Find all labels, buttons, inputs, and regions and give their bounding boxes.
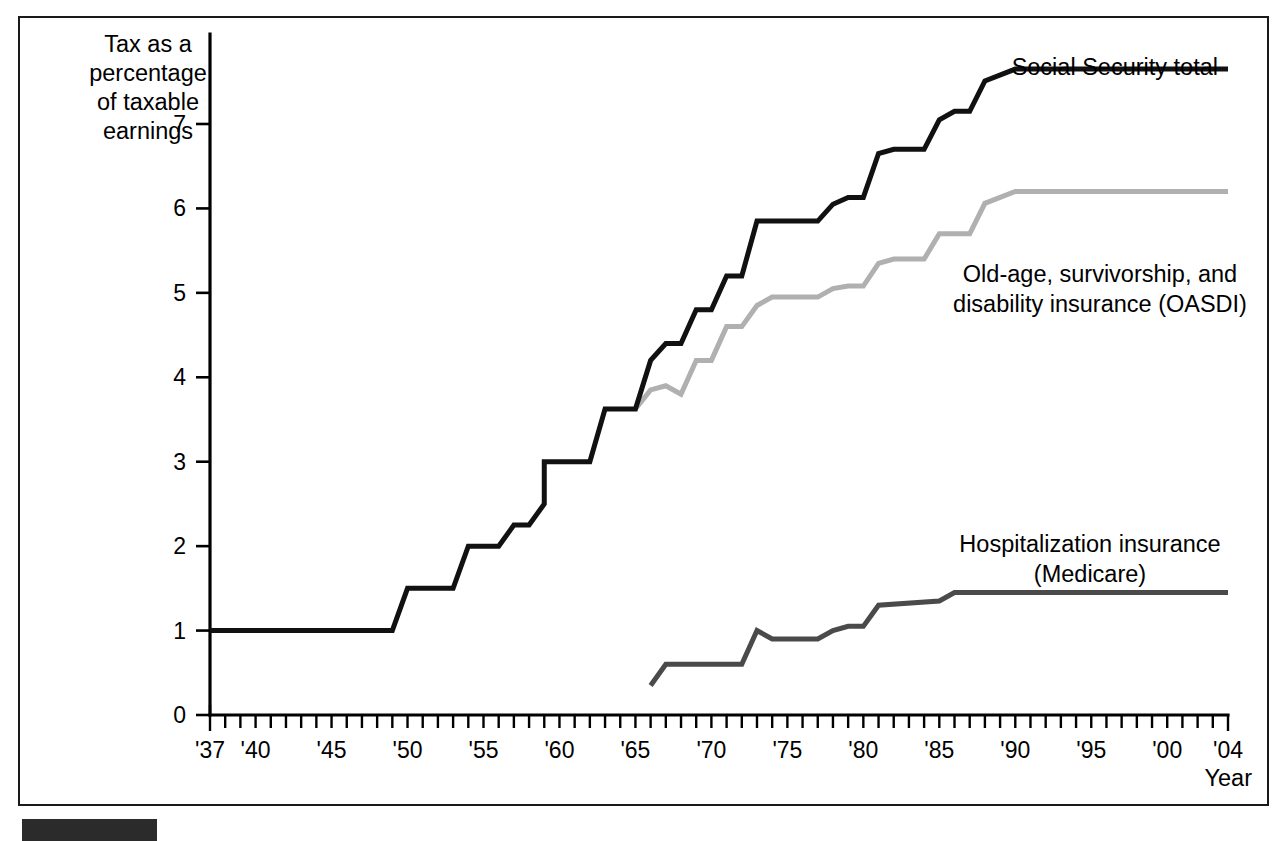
y-tick-label: 3 <box>173 449 186 475</box>
x-tick-label: '85 <box>924 737 954 763</box>
annotation-oasdi-line1: Old-age, survivorship, and <box>963 261 1237 287</box>
y-tick-label: 5 <box>173 280 186 306</box>
annotation-medicare-line2: (Medicare) <box>1034 561 1146 587</box>
figure-border <box>19 17 1268 805</box>
x-tick-label: '37 <box>195 737 225 763</box>
y-tick-label: 1 <box>173 618 186 644</box>
x-tick-label: '95 <box>1076 737 1106 763</box>
x-tick-label: '60 <box>544 737 574 763</box>
y-axis-title-line: percentage <box>89 60 207 86</box>
x-tick-label: '65 <box>620 737 650 763</box>
x-tick-label: '04 <box>1213 737 1243 763</box>
x-tick-label: '55 <box>469 737 499 763</box>
y-axis-title-line: Tax as a <box>104 31 192 57</box>
x-tick-label: '70 <box>696 737 726 763</box>
x-axis-title: Year <box>1205 765 1253 791</box>
x-tick-label: '50 <box>393 737 423 763</box>
y-tick-label: 4 <box>173 364 186 390</box>
x-tick-label: '75 <box>772 737 802 763</box>
x-tick-label: '40 <box>241 737 271 763</box>
x-tick-label: '00 <box>1152 737 1182 763</box>
source-bar <box>22 819 157 841</box>
y-tick-label: 0 <box>173 702 186 728</box>
y-tick-label: 7 <box>173 111 186 137</box>
x-tick-label: '90 <box>1000 737 1030 763</box>
annotation-social-security-total: Social Security total <box>1012 54 1218 80</box>
y-tick-label: 2 <box>173 533 186 559</box>
x-tick-label: '45 <box>317 737 347 763</box>
annotation-oasdi-line2: disability insurance (OASDI) <box>953 291 1247 317</box>
chart-svg: Tax as apercentageof taxableearnings 012… <box>0 0 1285 841</box>
annotation-medicare-line1: Hospitalization insurance <box>959 531 1220 557</box>
chart-figure: Tax as apercentageof taxableearnings 012… <box>0 0 1285 841</box>
x-tick-label: '80 <box>848 737 878 763</box>
y-tick-label: 6 <box>173 195 186 221</box>
